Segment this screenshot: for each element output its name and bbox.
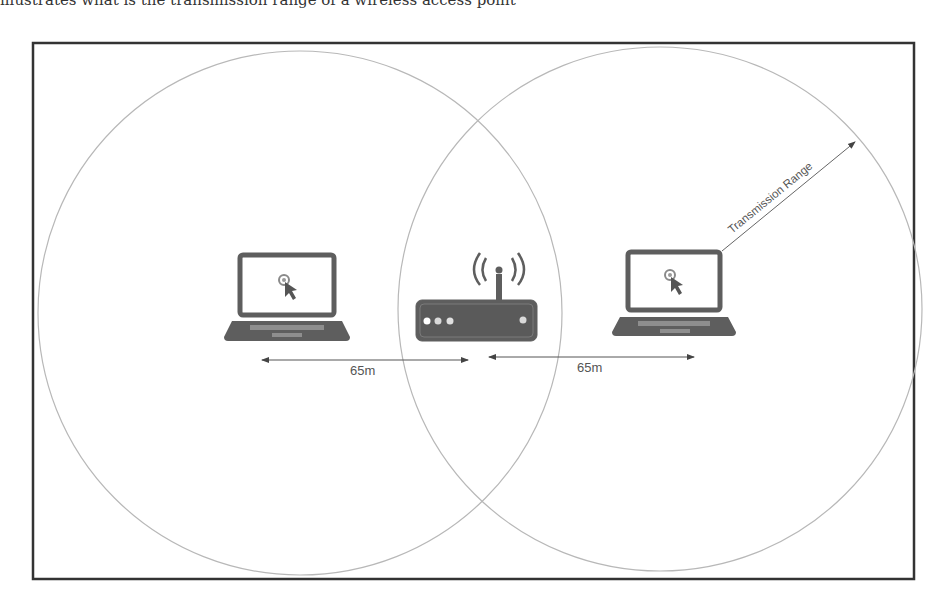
left-distance-label: 65m [350, 363, 375, 378]
router-icon [416, 253, 537, 341]
transmission-range-arrow [722, 142, 855, 251]
left-laptop-icon [224, 255, 350, 341]
right-distance-label: 65m [577, 360, 602, 375]
network-diagram: 65m 65m Transmission Range [0, 0, 947, 608]
transmission-range-label: Transmission Range [726, 160, 815, 236]
right-laptop-icon [612, 252, 736, 336]
